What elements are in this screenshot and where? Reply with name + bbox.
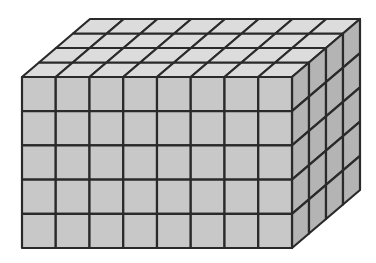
front-cube-face (191, 145, 225, 179)
front-cube-face (123, 77, 157, 111)
front-cube-face (258, 111, 292, 145)
front-cube-face (191, 214, 225, 248)
front-cube-face (56, 180, 90, 214)
front-cube-face (90, 77, 124, 111)
front-cube-face (123, 180, 157, 214)
front-cube-face (258, 180, 292, 214)
front-cube-face (157, 77, 191, 111)
front-cube-face (90, 180, 124, 214)
front-cube-face (225, 145, 259, 179)
front-cube-face (225, 111, 259, 145)
front-cube-face (123, 145, 157, 179)
front-cube-face (22, 77, 56, 111)
front-cube-face (157, 111, 191, 145)
front-cube-face (157, 180, 191, 214)
front-cube-face (22, 111, 56, 145)
front-cube-face (56, 145, 90, 179)
front-cube-face (258, 77, 292, 111)
front-cube-face (225, 77, 259, 111)
front-cube-face (225, 214, 259, 248)
front-cube-face (123, 111, 157, 145)
front-cube-face (56, 111, 90, 145)
front-cube-face (90, 145, 124, 179)
front-cube-face (191, 111, 225, 145)
front-cube-face (157, 145, 191, 179)
front-cube-face (123, 214, 157, 248)
front-cube-face (225, 180, 259, 214)
front-cube-face (90, 111, 124, 145)
front-cube-face (191, 180, 225, 214)
front-face (22, 77, 292, 248)
front-cube-face (22, 180, 56, 214)
front-cube-face (157, 214, 191, 248)
front-cube-face (22, 214, 56, 248)
front-cube-face (22, 145, 56, 179)
front-cube-face (258, 145, 292, 179)
unit-cube-prism (0, 0, 376, 263)
front-cube-face (90, 214, 124, 248)
front-cube-face (191, 77, 225, 111)
cube-prism-diagram (0, 0, 376, 263)
front-cube-face (56, 214, 90, 248)
front-cube-face (56, 77, 90, 111)
front-cube-face (258, 214, 292, 248)
